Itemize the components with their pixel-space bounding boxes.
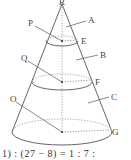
- center-label-o: O: [10, 94, 17, 104]
- region-label-a: A: [88, 15, 95, 25]
- region-label-c: C: [111, 92, 117, 102]
- rim-label-e: E: [81, 36, 87, 46]
- center-label-q: Q: [21, 53, 28, 63]
- region-label-b: B: [100, 50, 106, 60]
- cone-diagram: R A B C P Q O E F G: [0, 0, 131, 160]
- center-label-p: P: [28, 18, 33, 28]
- ratio-caption: 1) : (27 − 8) = 1 : 7 :: [2, 148, 96, 159]
- rim-label-g: G: [112, 127, 119, 137]
- apex-label: R: [59, 0, 65, 7]
- rim-label-f: F: [95, 77, 100, 87]
